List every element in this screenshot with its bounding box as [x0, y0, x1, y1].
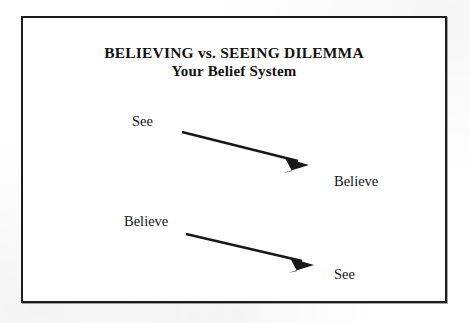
arrow-layer: [23, 18, 449, 305]
arrow-shaft: [186, 234, 302, 261]
arrow-see-to-believe: [182, 132, 309, 173]
figure-canvas: BELIEVING vs. SEEING DILEMMA Your Belief…: [0, 0, 470, 323]
arrow-shaft: [182, 132, 298, 161]
figure-frame: BELIEVING vs. SEEING DILEMMA Your Belief…: [21, 16, 447, 303]
arrow-believe-to-see: [186, 234, 314, 273]
